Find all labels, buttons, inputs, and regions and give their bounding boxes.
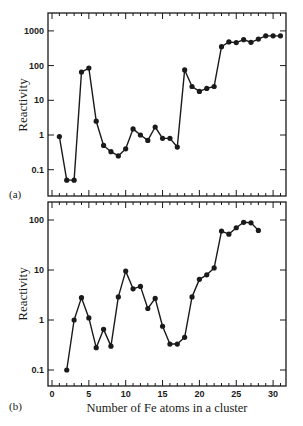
panel-a: 10001001010.1 Reactivity (a) [9, 13, 286, 201]
data-point [86, 315, 91, 320]
data-point [175, 144, 180, 149]
data-point [94, 345, 99, 350]
data-point [234, 40, 239, 45]
data-point [64, 178, 69, 183]
panel-a-label: (a) [9, 188, 22, 201]
panel-b-frame [48, 202, 286, 386]
data-point [248, 40, 253, 45]
data-point [226, 232, 231, 237]
data-point [248, 220, 253, 225]
data-point [153, 296, 158, 301]
data-point [116, 294, 121, 299]
y-tick-label: 10 [34, 265, 44, 275]
panel-b-series [64, 220, 261, 373]
y-tick-label: 100 [29, 61, 44, 71]
data-point [108, 344, 113, 349]
data-point [123, 269, 128, 274]
data-point [197, 277, 202, 282]
series-line [59, 36, 280, 180]
data-point [226, 39, 231, 44]
data-point [160, 324, 165, 329]
data-point [241, 220, 246, 225]
data-point [212, 265, 217, 270]
data-point [219, 44, 224, 49]
data-point [138, 132, 143, 137]
data-point [108, 149, 113, 154]
data-point [189, 84, 194, 89]
x-tick-label: 15 [158, 389, 168, 399]
data-point [160, 136, 165, 141]
x-tick-label: 30 [268, 389, 278, 399]
data-point [256, 228, 261, 233]
panel-b: 051015202530 1001010.1 Reactivity (b) [9, 202, 286, 413]
data-point [234, 225, 239, 230]
data-point [271, 33, 276, 38]
data-point [197, 89, 202, 94]
data-point [182, 335, 187, 340]
panel-b-x-ticks: 051015202530 [49, 202, 280, 399]
data-point [189, 294, 194, 299]
data-point [86, 65, 91, 70]
data-point [145, 138, 150, 143]
y-tick-label: 1 [39, 315, 44, 325]
data-point [130, 286, 135, 291]
data-point [219, 228, 224, 233]
panel-a-y-axis-label: Reactivity [15, 78, 30, 132]
y-tick-label: 100 [29, 215, 44, 225]
panel-a-series [57, 33, 283, 182]
data-point [101, 143, 106, 148]
data-point [278, 33, 283, 38]
panel-b-label: (b) [9, 400, 22, 413]
data-point [204, 272, 209, 277]
data-point [64, 367, 69, 372]
figure: 10001001010.1 Reactivity (a) 05101520253… [0, 0, 303, 426]
data-point [182, 67, 187, 72]
data-point [204, 86, 209, 91]
data-point [256, 37, 261, 42]
y-tick-label: 1000 [24, 26, 44, 36]
data-point [167, 136, 172, 141]
data-point [72, 178, 77, 183]
data-point [145, 306, 150, 311]
y-tick-label: 0.1 [31, 365, 44, 375]
x-tick-label: 10 [121, 389, 131, 399]
x-tick-label: 20 [194, 389, 204, 399]
data-point [241, 37, 246, 42]
x-tick-label: 5 [86, 389, 91, 399]
panel-a-y-ticks: 10001001010.1 [24, 26, 286, 175]
data-point [116, 153, 121, 158]
x-tick-label: 0 [49, 389, 54, 399]
x-tick-label: 25 [231, 389, 241, 399]
data-point [123, 146, 128, 151]
x-axis-label: Number of Fe atoms in a cluster [86, 401, 248, 415]
data-point [263, 33, 268, 38]
data-point [175, 341, 180, 346]
y-tick-label: 10 [34, 95, 44, 105]
y-tick-label: 0.1 [31, 165, 44, 175]
panel-b-y-axis-label: Reactivity [15, 267, 30, 321]
panel-b-y-ticks: 1001010.1 [29, 215, 286, 375]
data-point [130, 126, 135, 131]
data-point [167, 341, 172, 346]
data-point [153, 124, 158, 129]
data-point [79, 295, 84, 300]
data-point [57, 134, 62, 139]
data-point [72, 317, 77, 322]
data-point [138, 284, 143, 289]
data-point [101, 327, 106, 332]
y-tick-label: 1 [39, 130, 44, 140]
data-point [94, 119, 99, 124]
data-point [79, 69, 84, 74]
data-point [212, 84, 217, 89]
